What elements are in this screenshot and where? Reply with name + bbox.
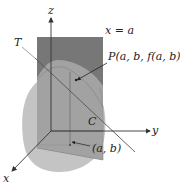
z-axis-label: z <box>47 4 54 17</box>
curve-label: C <box>88 115 97 128</box>
point-p <box>75 79 77 81</box>
plane-label: x = a <box>105 24 134 37</box>
base-point <box>69 144 71 146</box>
y-axis-label: y <box>151 124 159 137</box>
base-point-label: (a, b) <box>92 142 121 155</box>
point-p-label: P(a, b, f(a, b)) <box>107 50 180 63</box>
x-axis-label: x <box>3 172 10 185</box>
tangent-label: T <box>14 36 23 49</box>
tangent-label-leader <box>22 47 36 59</box>
surface-tangent-diagram: z y x x = a T P(a, b, f(a, b)) C (a, b) <box>0 0 180 187</box>
